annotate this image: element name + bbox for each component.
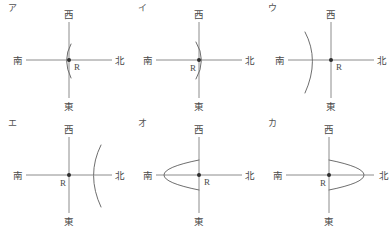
compass-diagram-u: 西 東 南 北 R: [260, 0, 392, 115]
diagram-panel-a: ア 西 東 南 北 R: [0, 0, 130, 115]
center-point-label: R: [60, 178, 66, 188]
center-point-label: R: [336, 62, 342, 72]
direction-label-right: 北: [115, 56, 125, 66]
direction-label-top: 西: [324, 125, 334, 135]
direction-label-left: 南: [143, 55, 153, 66]
direction-label-bottom: 東: [194, 216, 204, 227]
direction-label-left: 南: [13, 170, 23, 181]
direction-label-bottom: 東: [326, 101, 336, 112]
diagram-panel-o: オ 西 東 南 北 R: [130, 115, 260, 230]
direction-label-bottom: 東: [324, 216, 334, 227]
direction-label-bottom: 東: [64, 101, 74, 112]
center-point-dot: [67, 58, 71, 62]
center-point-label: R: [204, 177, 210, 187]
compass-diagram-i: 西 東 南 北 R: [130, 0, 260, 115]
diagram-panel-u: ウ 西 東 南 北 R: [260, 0, 392, 115]
direction-label-left: 南: [143, 170, 153, 181]
direction-label-top: 西: [64, 10, 74, 20]
arc-curve: [305, 32, 313, 93]
arc-curve: [94, 145, 102, 207]
compass-diagram-ka: 西 東 南 北 R: [260, 115, 392, 230]
direction-label-bottom: 東: [64, 216, 74, 227]
center-point-dot: [197, 58, 201, 62]
diagram-panel-ka: カ 西 東 南 北 R: [260, 115, 392, 230]
center-point-dot: [67, 173, 71, 177]
direction-label-right: 北: [245, 171, 255, 181]
center-point-dot: [327, 173, 331, 177]
center-point-dot: [197, 173, 201, 177]
compass-diagram-a: 西 東 南 北 R: [0, 0, 130, 115]
direction-label-right: 北: [245, 56, 255, 66]
center-point-dot: [329, 58, 333, 62]
direction-label-top: 西: [194, 125, 204, 135]
figure-grid: ア 西 東 南 北 R イ 西 東 南 北 R ウ: [0, 0, 392, 230]
direction-label-right: 北: [379, 171, 389, 181]
compass-diagram-o: 西 東 南 北 R: [130, 115, 260, 230]
direction-label-right: 北: [377, 56, 387, 66]
direction-label-top: 西: [194, 10, 204, 20]
direction-label-top: 西: [326, 10, 336, 20]
direction-label-left: 南: [273, 170, 283, 181]
direction-label-top: 西: [64, 125, 74, 135]
compass-diagram-e: 西 東 南 北 R: [0, 115, 130, 230]
center-point-label: R: [74, 62, 80, 72]
direction-label-left: 南: [275, 55, 285, 66]
center-point-label: R: [320, 178, 326, 188]
direction-label-left: 南: [13, 55, 23, 66]
diagram-panel-i: イ 西 東 南 北 R: [130, 0, 260, 115]
diagram-panel-e: エ 西 東 南 北 R: [0, 115, 130, 230]
direction-label-bottom: 東: [194, 101, 204, 112]
direction-label-right: 北: [115, 171, 125, 181]
center-point-label: R: [190, 63, 196, 73]
